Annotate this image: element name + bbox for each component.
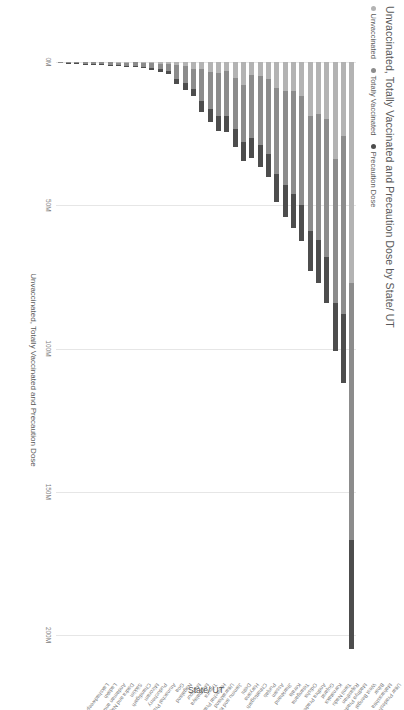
legend-item[interactable]: Unvaccinated	[369, 6, 378, 59]
category-label: Maharashtra	[389, 682, 394, 686]
category-label: Assam	[281, 682, 286, 686]
category-label: Mizoram	[156, 682, 161, 686]
category-label: Chhattisgarh	[264, 682, 269, 686]
bar-row[interactable]	[83, 62, 88, 64]
category-label: Lakshadweep	[106, 682, 111, 686]
category-label: West Bengal	[372, 682, 377, 686]
value-axis-title: Unvaccinated, Totally Vaccinated and Pre…	[29, 62, 38, 678]
category-label: Chandigarh	[147, 682, 152, 686]
category-label: Puducherry	[164, 682, 169, 686]
category-label: Jharkhand	[289, 682, 294, 686]
category-label: Madhya Pradesh	[364, 682, 369, 686]
chart-figure: Unvaccinated, Totally Vaccinated and Pre…	[0, 0, 404, 710]
value-axis-ticks: 0M50M100M150M200M	[38, 62, 52, 678]
value-axis-tick-label: 150M	[45, 484, 52, 500]
category-label: Sikkim	[139, 682, 144, 686]
bar-row[interactable]	[66, 62, 71, 63]
value-axis-tick-label: 0M	[45, 57, 52, 66]
legend-swatch-icon	[371, 6, 376, 11]
category-label: Punjab	[272, 682, 277, 686]
bar-row[interactable]	[74, 62, 79, 63]
category-label: Odisha	[314, 682, 319, 686]
category-label: Ladakh	[114, 682, 119, 686]
category-label: Andaman and Nicobar Islands	[122, 682, 127, 686]
category-label: Karnataka	[339, 682, 344, 686]
category-label: Goa	[181, 682, 186, 686]
bar-row[interactable]	[91, 62, 96, 64]
category-label: Tamil Nadu	[347, 682, 352, 686]
category-label: Telangana	[306, 682, 311, 686]
category-label: Gujarat	[331, 682, 336, 686]
bar-segment[interactable]	[91, 64, 96, 65]
value-axis-tick-label: 100M	[45, 340, 52, 356]
rotated-figure-container: Unvaccinated, Totally Vaccinated and Pre…	[0, 0, 404, 710]
legend-label: Unvaccinated	[369, 14, 378, 59]
category-label: Rajasthan	[356, 682, 361, 686]
category-label: Delhi	[247, 682, 252, 686]
category-label: Uttarakhand	[231, 682, 236, 686]
category-label: Uttar Pradesh	[397, 682, 402, 686]
value-axis-tick-label: 200M	[45, 627, 52, 643]
bar-segment[interactable]	[83, 64, 88, 65]
category-label: Arunachal Pradesh	[172, 682, 177, 686]
category-axis-labels: Uttar PradeshMaharashtraBiharWest Bengal…	[104, 62, 404, 678]
category-label: Bihar	[381, 682, 386, 686]
category-label: Haryana	[256, 682, 261, 686]
value-axis-tick-label: 50M	[45, 199, 52, 212]
category-label: Andhra Pradesh	[322, 682, 327, 686]
category-axis-title: State/ UT	[188, 685, 224, 695]
category-label: Jammu and Kashmir	[239, 682, 244, 686]
category-label: Dadra and Nagar Haveli and Daman and Diu	[131, 682, 136, 686]
category-label: Kerala	[297, 682, 302, 686]
